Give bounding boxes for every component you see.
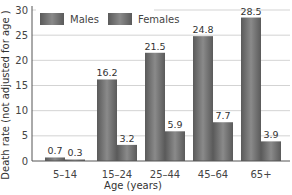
y-tick-label: 15 bbox=[15, 80, 28, 91]
y-tick-label: 30 bbox=[15, 5, 28, 16]
bar-males bbox=[45, 157, 65, 161]
y-axis-ticks: 051015202530 bbox=[15, 5, 28, 167]
y-tick-label: 20 bbox=[15, 55, 28, 66]
data-label: 3.9 bbox=[263, 129, 278, 140]
legend-swatch-females bbox=[108, 13, 132, 25]
bar-males bbox=[241, 18, 261, 161]
bar-males bbox=[97, 79, 117, 161]
bar-males bbox=[145, 53, 165, 161]
legend-label-males: Males bbox=[70, 14, 99, 25]
data-label: 5.9 bbox=[167, 119, 182, 130]
data-label: 24.8 bbox=[192, 24, 213, 35]
bars: 0.70.316.23.221.55.924.87.728.53.9 bbox=[45, 6, 281, 161]
x-tick-label: 5–14 bbox=[53, 169, 77, 180]
legend-swatch-males bbox=[40, 13, 64, 25]
bar-females bbox=[117, 145, 137, 161]
x-tick-label: 25–44 bbox=[150, 169, 180, 180]
x-axis-ticks: 5–1415–2425–4445–6465+ bbox=[53, 169, 272, 180]
y-tick-label: 25 bbox=[15, 30, 28, 41]
data-label: 0.3 bbox=[67, 147, 82, 158]
y-axis-title: Death rate (not adjusted for age ) bbox=[0, 10, 11, 180]
bar-males bbox=[193, 36, 213, 161]
data-label: 3.2 bbox=[119, 133, 134, 144]
bar-females bbox=[165, 131, 185, 161]
data-label: 7.7 bbox=[215, 110, 230, 121]
y-tick-label: 10 bbox=[15, 105, 28, 116]
data-label: 0.7 bbox=[47, 145, 62, 156]
bar-females bbox=[261, 141, 281, 161]
data-label: 16.2 bbox=[96, 67, 117, 78]
legend-label-females: Females bbox=[138, 14, 179, 25]
bar-females bbox=[213, 122, 233, 161]
x-tick-label: 15–24 bbox=[102, 169, 132, 180]
bar-chart: 051015202530 0.70.316.23.221.55.924.87.7… bbox=[0, 0, 292, 195]
data-label: 28.5 bbox=[240, 6, 261, 17]
x-tick-label: 65+ bbox=[250, 169, 271, 180]
x-tick-label: 45–64 bbox=[198, 169, 228, 180]
y-tick-label: 5 bbox=[22, 130, 28, 141]
data-label: 21.5 bbox=[144, 41, 165, 52]
y-tick-label: 0 bbox=[22, 156, 28, 167]
x-axis-title: Age (years) bbox=[104, 180, 162, 191]
legend: MalesFemales bbox=[36, 8, 179, 28]
